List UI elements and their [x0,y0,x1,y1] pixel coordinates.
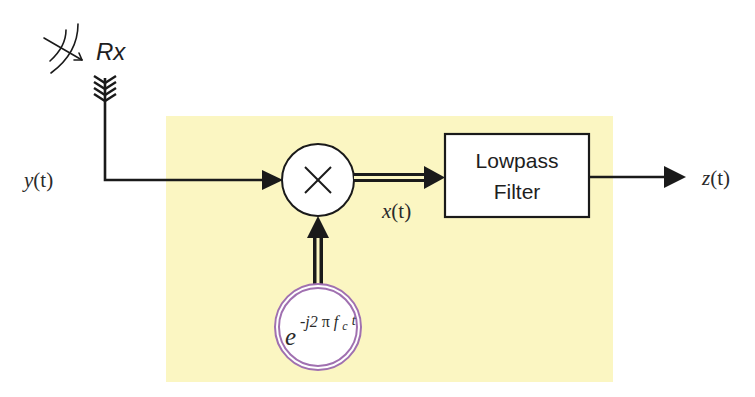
local-oscillator: e -j2 π f c t [275,284,361,370]
input-signal-label: y(t) [22,168,53,192]
incoming-wave-icon [44,24,82,73]
filter-label-line2: Filter [494,180,541,203]
output-signal-label: z(t) [701,166,730,190]
antenna-label: Rx [96,38,126,65]
mixer-output-label: x(t) [381,199,411,223]
filter-label-line1: Lowpass [476,149,559,172]
lowpass-filter-block: Lowpass Filter [445,134,589,217]
output-arrowhead [664,166,686,188]
downconversion-diagram: Rx y(t) x(t) Lowpass Filter [0,0,755,397]
mixer [282,144,354,216]
